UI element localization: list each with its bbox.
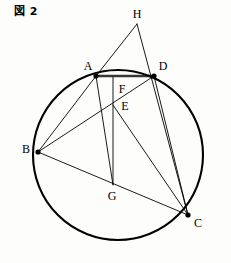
point-label-b: B — [22, 143, 30, 155]
point-label-f: F — [119, 83, 126, 95]
vertex-dot-b — [35, 149, 40, 154]
vertex-dot-d — [151, 73, 156, 78]
segment-h-a — [96, 24, 137, 76]
segment-a-g — [96, 76, 113, 185]
vertex-dot-a — [93, 73, 98, 78]
point-label-a: A — [84, 60, 93, 72]
segment-d-c — [154, 76, 188, 215]
figure-container: 図 2 ABCDEFGH — [0, 0, 231, 263]
point-label-h: H — [133, 8, 142, 20]
point-label-g: G — [108, 190, 117, 202]
point-label-d: D — [159, 60, 168, 72]
segment-e-c — [113, 105, 188, 215]
point-label-e: E — [121, 100, 128, 112]
segment-b-d — [38, 76, 154, 152]
segment-h-c — [137, 24, 188, 215]
point-label-c: C — [194, 217, 202, 229]
vertex-dot-c — [185, 212, 190, 217]
segments-layer — [38, 24, 188, 215]
